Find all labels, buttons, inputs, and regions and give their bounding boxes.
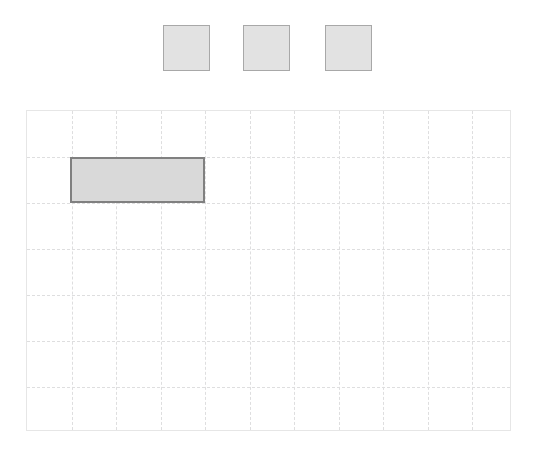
tray-square-1[interactable]	[163, 25, 210, 71]
gridline-vertical-5	[250, 111, 251, 430]
gridline-vertical-4	[205, 111, 206, 430]
gridline-vertical-7	[339, 111, 340, 430]
placed-block-1[interactable]	[70, 157, 205, 203]
gridline-vertical-9	[428, 111, 429, 430]
gridline-horizontal-3	[27, 249, 510, 250]
gridline-horizontal-6	[27, 387, 510, 388]
gridline-horizontal-4	[27, 295, 510, 296]
gridline-vertical-10	[472, 111, 473, 430]
gridline-horizontal-5	[27, 341, 510, 342]
tray-square-2[interactable]	[243, 25, 290, 71]
gridline-vertical-6	[294, 111, 295, 430]
gridline-horizontal-2	[27, 203, 510, 204]
grid-board[interactable]	[26, 110, 511, 431]
puzzle-canvas	[0, 0, 537, 459]
tray-square-3[interactable]	[325, 25, 372, 71]
gridline-vertical-8	[383, 111, 384, 430]
